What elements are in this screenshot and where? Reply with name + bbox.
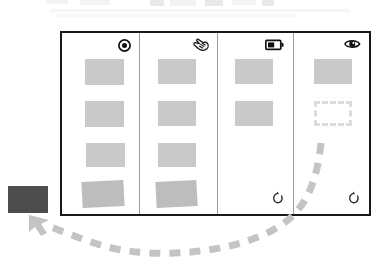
record-target-icon: [118, 39, 131, 52]
panel-record[interactable]: [62, 33, 139, 214]
card[interactable]: [155, 180, 197, 208]
card[interactable]: [85, 101, 124, 127]
card[interactable]: [235, 59, 273, 84]
card[interactable]: [81, 180, 124, 208]
card[interactable]: [85, 59, 124, 85]
battery-icon: [265, 39, 284, 51]
card[interactable]: [235, 101, 273, 126]
card[interactable]: [158, 101, 196, 126]
hand-grab-icon: [192, 37, 210, 53]
storyboard-stage: [0, 0, 378, 273]
undo-arrow-icon[interactable]: [348, 191, 361, 206]
panel-battery[interactable]: [218, 33, 293, 214]
card-placeholder[interactable]: [314, 101, 352, 126]
top-clipped-artifacts: [0, 0, 378, 22]
card[interactable]: [158, 59, 196, 84]
undo-arrow-icon[interactable]: [272, 191, 285, 206]
panel-hand[interactable]: [140, 33, 217, 214]
eye-icon: [344, 38, 361, 50]
storyboard-frame: [60, 31, 371, 216]
extracted-card-swatch[interactable]: [8, 186, 48, 213]
card[interactable]: [158, 143, 196, 167]
panel-eye[interactable]: [294, 33, 369, 214]
card[interactable]: [86, 143, 125, 167]
card[interactable]: [314, 59, 352, 84]
